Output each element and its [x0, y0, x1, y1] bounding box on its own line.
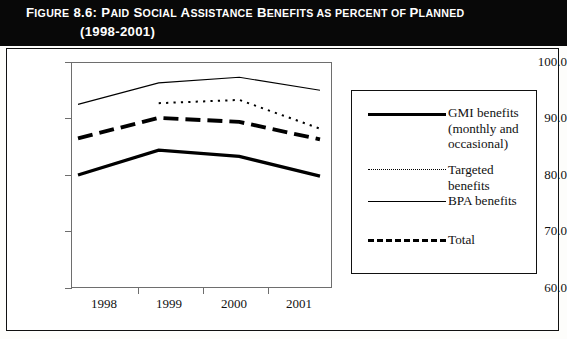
y-axis-tick-label-100: 100.0 [515, 54, 567, 70]
legend-swatch-dotted-icon [368, 169, 446, 170]
figure-title-band: FIGURE 8.6: PAID SOCIAL ASSISTANCE BENEF… [0, 0, 567, 46]
figure-title-line-1: FIGURE 8.6: PAID SOCIAL ASSISTANCE BENEF… [26, 5, 546, 20]
x-axis-tick-mark-2000 [203, 288, 204, 294]
plot-area [71, 62, 332, 288]
legend-label-bpa-benefits: BPA benefits [448, 193, 517, 209]
x-axis-tick-mark-1999 [138, 288, 139, 294]
legend-swatch-solid-thick-icon [368, 113, 446, 116]
figure-title-line-2: (1998-2001) [80, 24, 155, 39]
x-axis-tick-label-2001: 2001 [269, 296, 329, 312]
legend-label-gmi-line2: (monthly and [448, 121, 519, 137]
chart-legend: GMI benefits (monthly and occasional) Ta… [351, 90, 537, 274]
x-axis-tick-label-2000: 2000 [204, 296, 264, 312]
figure-container: FIGURE 8.6: PAID SOCIAL ASSISTANCE BENEF… [0, 0, 567, 339]
legend-label-gmi-line1: GMI benefits [448, 105, 519, 121]
x-axis-tick-label-1999: 1999 [139, 296, 199, 312]
x-axis-tick-mark-2001 [268, 288, 269, 294]
legend-label-gmi-line3: occasional) [448, 136, 519, 152]
legend-label-targeted-benefits: Targeted benefits [448, 162, 538, 193]
legend-label-gmi-benefits: GMI benefits (monthly and occasional) [448, 105, 519, 152]
x-axis-tick-label-1998: 1998 [74, 296, 134, 312]
legend-swatch-dashed-icon [368, 239, 446, 242]
y-axis-tick-label-60: 60.0 [515, 280, 567, 296]
legend-label-total: Total [448, 232, 475, 248]
y-axis-tick-mark-60 [65, 288, 72, 289]
legend-swatch-solid-thin-icon [368, 201, 446, 202]
